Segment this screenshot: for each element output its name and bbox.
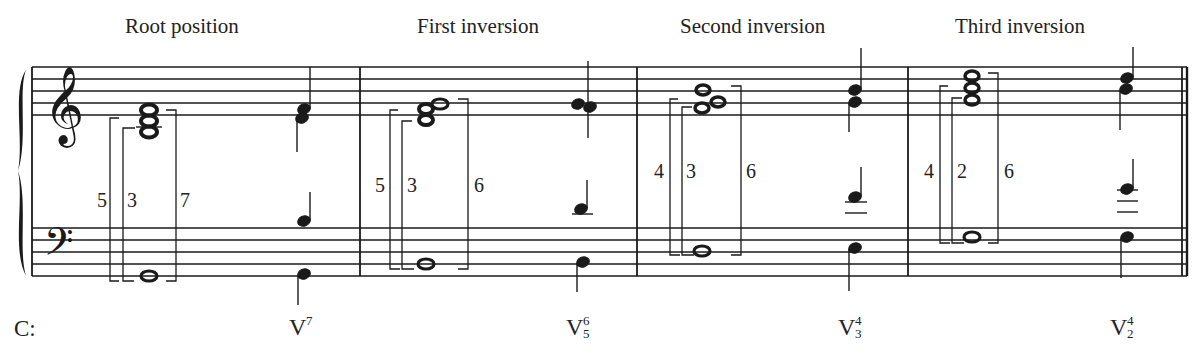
roman-numeral: V bbox=[289, 314, 306, 340]
roman-numeral-v7: V 7 bbox=[289, 314, 306, 341]
interval-6: 6 bbox=[746, 160, 756, 183]
roman-numeral-v42: V 4 2 bbox=[1110, 314, 1127, 341]
figure-bottom: 2 bbox=[1127, 326, 1134, 342]
bass-clef-icon: 𝄢 bbox=[44, 219, 74, 273]
third-inversion-resolution bbox=[1117, 47, 1138, 278]
first-inversion-resolution bbox=[570, 61, 598, 292]
grand-staff: 𝄞 𝄢 bbox=[0, 0, 1201, 363]
treble-clef-icon: 𝄞 bbox=[44, 65, 84, 148]
root-position-chord bbox=[110, 105, 176, 282]
first-inversion-chord bbox=[390, 99, 468, 269]
interval-6: 6 bbox=[1004, 160, 1014, 183]
second-inversion-chord bbox=[670, 85, 741, 256]
key-label: C: bbox=[14, 316, 36, 342]
interval-7: 7 bbox=[180, 189, 190, 212]
brace bbox=[18, 70, 26, 276]
interval-5: 5 bbox=[97, 189, 107, 212]
interval-5: 5 bbox=[375, 174, 385, 197]
interval-4: 4 bbox=[654, 160, 664, 183]
interval-3: 3 bbox=[686, 160, 696, 183]
interval-2: 2 bbox=[957, 160, 967, 183]
interval-4: 4 bbox=[924, 160, 934, 183]
interval-6: 6 bbox=[474, 174, 484, 197]
roman-numeral: V bbox=[566, 314, 583, 340]
third-inversion-chord bbox=[940, 71, 998, 243]
roman-numeral: V bbox=[838, 314, 855, 340]
roman-numeral-v43: V 4 3 bbox=[838, 314, 855, 341]
figure-bottom: 3 bbox=[855, 326, 862, 342]
figure-bottom: 5 bbox=[583, 326, 590, 342]
roman-numeral: V bbox=[1110, 314, 1127, 340]
interval-3: 3 bbox=[407, 174, 417, 197]
second-inversion-resolution bbox=[845, 48, 867, 291]
figure-top: 7 bbox=[306, 313, 313, 329]
roman-numeral-v65: V 6 5 bbox=[566, 314, 583, 341]
interval-3: 3 bbox=[127, 189, 137, 212]
